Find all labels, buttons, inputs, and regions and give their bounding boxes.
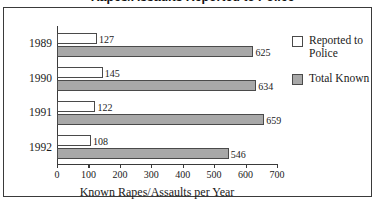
- x-ticklabel-100: 100: [81, 169, 96, 180]
- bar-value-total-1989: 625: [256, 46, 271, 57]
- category-label-1992: 1992: [29, 141, 52, 153]
- category-label-1991: 1991: [29, 106, 52, 118]
- x-ticklabel-200: 200: [112, 169, 127, 180]
- bar-reported-1991[interactable]: [57, 101, 95, 112]
- x-ticklabel-700: 700: [270, 169, 285, 180]
- x-tick-400: [183, 164, 184, 168]
- legend-item-reported-to-police[interactable]: Reported to Police: [292, 34, 374, 59]
- x-tick-100: [88, 164, 89, 168]
- plot-area: 0 100 200 300 400 500 600 700 127 625 14…: [57, 26, 277, 164]
- bar-reported-1989[interactable]: [57, 33, 97, 44]
- chart-legend: Reported to Police Total Known: [292, 34, 374, 98]
- x-tick-300: [151, 164, 152, 168]
- legend-label-reported-to-police: Reported to Police: [309, 34, 363, 59]
- category-label-1990: 1990: [29, 72, 52, 84]
- x-ticklabel-500: 500: [207, 169, 222, 180]
- x-tick-500: [214, 164, 215, 168]
- bar-value-reported-1990: 145: [105, 67, 120, 78]
- bar-value-total-1991: 659: [266, 114, 281, 125]
- x-tick-200: [120, 164, 121, 168]
- bar-total-1989[interactable]: [57, 46, 253, 57]
- legend-swatch-gray-icon: [292, 74, 303, 85]
- legend-label-total-known: Total Known: [309, 72, 369, 85]
- bar-value-total-1990: 634: [258, 80, 273, 91]
- category-label-1989: 1989: [29, 37, 52, 49]
- x-axis-line: [57, 164, 277, 165]
- x-ticklabel-400: 400: [175, 169, 190, 180]
- chart-frame: 1989 1990 1991 1992 0 100 200 300 400 50…: [3, 7, 372, 197]
- x-tick-700: [277, 164, 278, 168]
- chart-title: Rapes/Assaults Reported to Police: [0, 0, 385, 4]
- bar-value-reported-1989: 127: [99, 33, 114, 44]
- legend-swatch-white-icon: [292, 36, 303, 47]
- bar-reported-1990[interactable]: [57, 67, 103, 78]
- x-ticklabel-300: 300: [144, 169, 159, 180]
- category-axis-labels: 1989 1990 1991 1992: [4, 26, 52, 164]
- chart-page: Rapes/Assaults Reported to Police 1989 1…: [0, 0, 385, 203]
- legend-label-line2: Police: [309, 47, 338, 59]
- bar-reported-1992[interactable]: [57, 135, 91, 146]
- bar-total-1991[interactable]: [57, 114, 264, 125]
- x-axis-title: Known Rapes/Assaults per Year: [12, 185, 302, 200]
- bar-total-1992[interactable]: [57, 148, 229, 159]
- x-ticklabel-600: 600: [238, 169, 253, 180]
- legend-label-line1: Reported to: [309, 34, 363, 46]
- bar-value-total-1992: 546: [231, 148, 246, 159]
- x-tick-600: [246, 164, 247, 168]
- x-tick-0: [57, 164, 58, 168]
- bar-total-1990[interactable]: [57, 80, 256, 91]
- legend-item-total-known[interactable]: Total Known: [292, 72, 374, 85]
- x-ticklabel-0: 0: [55, 169, 60, 180]
- bar-value-reported-1992: 108: [93, 135, 108, 146]
- bar-value-reported-1991: 122: [97, 101, 112, 112]
